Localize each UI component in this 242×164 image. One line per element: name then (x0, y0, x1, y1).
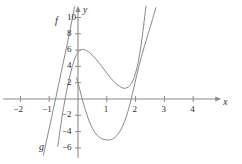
y-tick-label--2: −2 (62, 110, 72, 119)
x-tick-label-3: 3 (161, 105, 166, 114)
y-tick-label-6: 6 (67, 45, 72, 54)
curves-group (43, 6, 155, 155)
y-tick-label-2: 2 (67, 78, 72, 87)
curve-label-g: g (39, 142, 44, 152)
x-axis-arrowhead (215, 96, 221, 101)
y-tick-label--6: −6 (62, 143, 72, 152)
graph-figure: −2−11234−6−4−2246810xyfg (0, 0, 242, 164)
x-tick-label-1: 1 (104, 105, 109, 114)
y-tick-label-4: 4 (67, 61, 72, 70)
x-tick-label-4: 4 (190, 105, 195, 114)
x-tick-label--1: −1 (42, 105, 52, 114)
x-tick-label-2: 2 (133, 105, 138, 114)
curve-g (77, 8, 156, 140)
y-tick-label-10: 10 (67, 13, 76, 22)
y-axis-label: y (83, 6, 87, 16)
x-axis-label: x (223, 98, 227, 108)
axes-group (3, 6, 221, 158)
x-tick-label--2: −2 (13, 105, 23, 114)
tick-marks-group (20, 18, 193, 148)
y-axis-arrowhead (75, 6, 80, 12)
y-tick-label-8: 8 (67, 29, 72, 38)
coordinate-plane (0, 0, 242, 164)
y-tick-label--4: −4 (62, 127, 72, 136)
curve-label-f: f (55, 16, 58, 26)
